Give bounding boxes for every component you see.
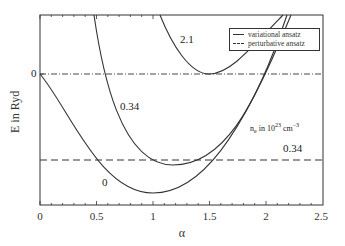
dashdot-line-swatch (233, 43, 244, 44)
y-axis-label: E in Ryd (8, 91, 23, 133)
legend-label-perturbative: perturbative ansatz (248, 39, 305, 48)
x-axis-label: α (179, 227, 185, 239)
solid-line-swatch (233, 34, 244, 35)
label-dashed-034: 0.34 (283, 143, 302, 154)
density-unit-exponent: −3 (293, 122, 299, 128)
y-tick-label-0: 0 (31, 68, 37, 79)
legend: variational ansatz perturbative ansatz (229, 28, 320, 51)
x-tick-label: 1 (150, 211, 156, 222)
label-curve-0: 0 (102, 177, 108, 188)
density-unit: cm (281, 124, 293, 133)
x-tick-label: 0 (37, 211, 43, 222)
x-tick-label: 2 (263, 211, 269, 222)
density-text: in 10 (257, 124, 275, 133)
x-tick-label: 1.5 (203, 211, 217, 222)
legend-item-perturbative: perturbative ansatz (233, 39, 305, 48)
legend-label-variational: variational ansatz (248, 30, 301, 39)
density-annotation: ne in 1023 cm−3 (250, 122, 299, 134)
x-tick-label: 0.5 (90, 211, 104, 222)
label-curve-21: 2.1 (180, 34, 194, 45)
x-tick-label: 2.5 (314, 211, 328, 222)
legend-item-variational: variational ansatz (233, 30, 301, 39)
label-curve-034: 0.34 (120, 101, 139, 112)
